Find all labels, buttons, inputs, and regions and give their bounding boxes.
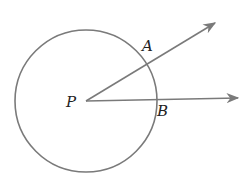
diagram-canvas: P A B <box>0 0 250 179</box>
label-B: B <box>156 102 168 120</box>
label-A: A <box>140 37 153 55</box>
label-P: P <box>65 93 77 111</box>
ray-PB <box>86 98 238 101</box>
geometry-figure: P A B <box>0 0 250 179</box>
ray-PA <box>86 23 215 101</box>
